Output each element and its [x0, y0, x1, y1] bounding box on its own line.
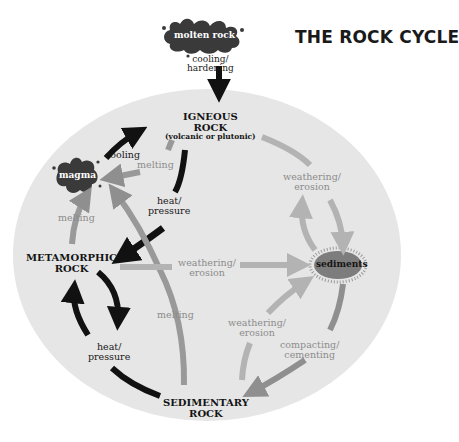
weathering-meta-label: weathering/ erosion	[178, 258, 236, 278]
heat-pressure-top-label: heat/ pressure	[148, 196, 190, 216]
heat-pressure-bottom-label: heat/ pressure	[88, 342, 130, 362]
sedimentary-rock-label: SEDIMENTARY ROCK	[163, 398, 249, 419]
magma-label: magma	[59, 171, 96, 180]
metamorphic-rock-label: METAMORPHIC ROCK	[26, 253, 117, 274]
weathering-sed-label: weathering/ erosion	[228, 318, 286, 338]
melting-sed-label: melting	[157, 310, 194, 320]
melting-meta-label: melting	[58, 213, 95, 223]
weathering-igneous-label: weathering/ erosion	[283, 172, 341, 192]
cooling-label: cooling	[105, 150, 140, 160]
molten-rock-label: molten rock	[174, 31, 235, 40]
diagram-title: THE ROCK CYCLE	[295, 27, 459, 47]
melting-igneous-label: melting	[137, 160, 174, 170]
sediments-label: sediments	[316, 260, 368, 269]
arrow-melting-igneous	[168, 140, 172, 150]
igneous-rock-label: IGNEOUS ROCK (volcanic or plutonic)	[165, 112, 256, 141]
cooling-hardening-label: cooling/ hardening	[187, 55, 234, 74]
compacting-cementing-label: compacting/ cementing	[280, 340, 339, 360]
